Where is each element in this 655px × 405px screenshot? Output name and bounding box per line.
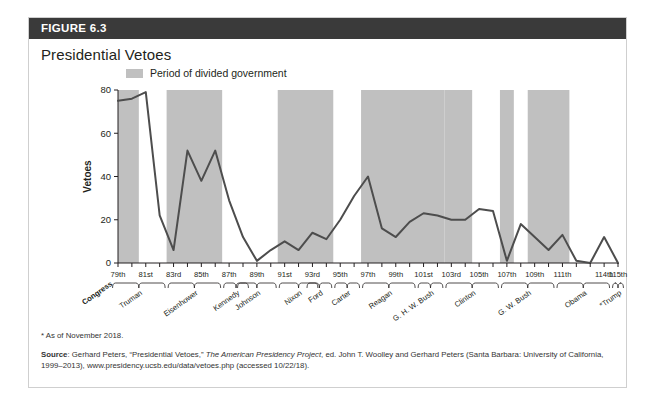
svg-text:40: 40 bbox=[100, 171, 111, 182]
svg-text:87th: 87th bbox=[222, 270, 237, 279]
source-label: Source bbox=[41, 350, 67, 359]
svg-text:95th: 95th bbox=[333, 270, 348, 279]
svg-text:*Trump: *Trump bbox=[598, 288, 623, 309]
svg-text:111th: 111th bbox=[554, 270, 572, 279]
svg-text:89th: 89th bbox=[249, 270, 264, 279]
svg-text:107th: 107th bbox=[497, 270, 516, 279]
y-axis: 020406080Vetoes bbox=[82, 84, 118, 268]
svg-text:Obama: Obama bbox=[563, 288, 589, 310]
svg-text:0: 0 bbox=[106, 257, 111, 268]
svg-text:Carter: Carter bbox=[330, 288, 353, 308]
source-italic-title: The American Presidency Project bbox=[206, 350, 321, 359]
president-brackets: TrumanEisenhowerKennedyJohnsonNixonFordC… bbox=[113, 283, 624, 323]
svg-text:G. W. Bush: G. W. Bush bbox=[496, 288, 533, 317]
svg-text:85th: 85th bbox=[194, 270, 209, 279]
source-pre-text: : Gerhard Peters, “Presidential Vetoes,” bbox=[67, 350, 205, 359]
svg-text:97th: 97th bbox=[361, 270, 376, 279]
svg-text:G. H. W. Bush: G. H. W. Bush bbox=[391, 288, 436, 323]
source-note: Source: Gerhard Peters, “Presidential Ve… bbox=[41, 349, 619, 372]
svg-text:Clinton: Clinton bbox=[453, 288, 478, 309]
svg-text:Truman: Truman bbox=[118, 288, 144, 310]
svg-text:60: 60 bbox=[100, 128, 111, 139]
svg-text:105th: 105th bbox=[470, 270, 489, 279]
divided-government-bands bbox=[118, 90, 569, 263]
figure-footnotes: * As of November 2018. Source: Gerhard P… bbox=[41, 331, 619, 372]
svg-text:93rd: 93rd bbox=[305, 270, 320, 279]
figure-card: FIGURE 6.3 Presidential Vetoes Period of… bbox=[28, 17, 627, 388]
svg-text:101st: 101st bbox=[414, 270, 433, 279]
svg-text:Congress: Congress bbox=[80, 279, 114, 306]
footnote-as-of: * As of November 2018. bbox=[41, 331, 619, 341]
svg-text:Ford: Ford bbox=[307, 288, 325, 304]
svg-text:109th: 109th bbox=[525, 270, 544, 279]
svg-text:Nixon: Nixon bbox=[283, 288, 304, 307]
svg-text:115th: 115th bbox=[609, 270, 627, 279]
svg-text:99th: 99th bbox=[388, 270, 403, 279]
svg-text:80: 80 bbox=[100, 84, 111, 95]
svg-text:103rd: 103rd bbox=[442, 270, 461, 279]
svg-text:Eisenhower: Eisenhower bbox=[162, 288, 200, 318]
svg-text:20: 20 bbox=[100, 214, 111, 225]
svg-text:81st: 81st bbox=[139, 270, 154, 279]
svg-text:Reagan: Reagan bbox=[367, 288, 394, 311]
svg-text:91st: 91st bbox=[277, 270, 292, 279]
svg-text:Vetoes: Vetoes bbox=[82, 160, 93, 193]
svg-text:83rd: 83rd bbox=[166, 270, 181, 279]
svg-text:79th: 79th bbox=[111, 270, 126, 279]
x-axis: 79th81st83rd85th87th89th91st93rd95th97th… bbox=[80, 263, 627, 307]
